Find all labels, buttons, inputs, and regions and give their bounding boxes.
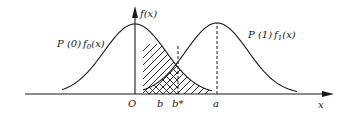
- diagram-canvas: f(x) O x b b* a P (0)f0(x) P (1)f1(x): [0, 0, 348, 114]
- hatch-line: [163, 44, 213, 94]
- hatch-line: [183, 44, 233, 94]
- hatch-line: [50, 44, 100, 94]
- hatch-region-f0: [100, 44, 325, 94]
- hatch-line: [261, 44, 311, 94]
- hatch-line: [233, 44, 283, 94]
- x-axis-label: x: [318, 99, 324, 110]
- hatch-line: [71, 44, 121, 94]
- y-axis-arrow-icon: [132, 6, 138, 18]
- hatch-line: [134, 44, 184, 94]
- origin-label: O: [128, 98, 136, 109]
- hatch-line: [205, 44, 255, 94]
- curve-label-f0: P (0)f0(x): [56, 38, 105, 51]
- hatch-line: [64, 44, 114, 94]
- hatch-line: [268, 44, 318, 94]
- hatch-line: [191, 44, 241, 94]
- curve-label-f1: P (1)f1(x): [247, 29, 296, 42]
- hatch-line: [113, 44, 163, 94]
- hatch-line: [106, 44, 156, 94]
- hatch-line: [218, 44, 268, 94]
- marker-label-b: b: [157, 98, 163, 109]
- hatch-line: [198, 44, 248, 94]
- hatch-line: [211, 44, 261, 94]
- hatch-line: [225, 44, 275, 94]
- hatch-line: [120, 44, 170, 94]
- hatch-line: [177, 44, 227, 94]
- hatch-line: [212, 44, 262, 94]
- curve-f0: [62, 24, 212, 91]
- marker-label-a: a: [213, 98, 219, 109]
- hatch-line: [78, 44, 128, 94]
- marker-label-b-star: b*: [172, 98, 183, 109]
- hatch-line: [99, 44, 149, 94]
- hatch-line: [190, 44, 240, 94]
- y-axis-label: f(x): [139, 8, 157, 19]
- hatch-line: [204, 44, 254, 94]
- hatch-line: [57, 44, 107, 94]
- x-axis-arrow-icon: [322, 91, 334, 97]
- hatch-line: [226, 44, 276, 94]
- hatch-line: [197, 44, 247, 94]
- hatch-region-f1: [50, 44, 275, 94]
- hatch-line: [85, 44, 135, 94]
- hatch-line: [100, 44, 150, 94]
- hatch-line: [184, 44, 234, 94]
- hatch-line: [247, 44, 297, 94]
